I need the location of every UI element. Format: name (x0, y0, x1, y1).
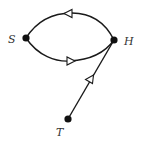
arrow-right-icon (67, 57, 75, 65)
edge-s-to-h (26, 38, 114, 61)
arrow-left-icon (64, 10, 72, 18)
label-s: S (8, 33, 16, 46)
node-s (22, 34, 29, 41)
arrow-up-right-icon (86, 75, 94, 84)
node-t (64, 115, 71, 122)
directed-graph-diagram: S H T (0, 0, 152, 143)
label-h: H (123, 35, 134, 48)
node-h (110, 36, 117, 43)
label-t: T (56, 126, 65, 139)
